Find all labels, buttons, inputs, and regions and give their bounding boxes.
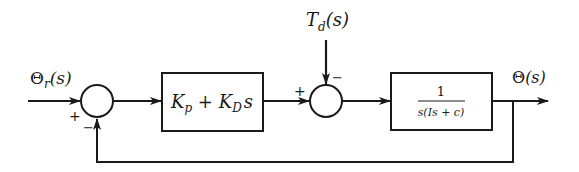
- disturbance-junction-plus-sign: +: [294, 83, 306, 99]
- error-junction-minus-sign: −: [83, 120, 94, 135]
- block-diagram: Θr(s) + − Kp + KDs + Td(s) − 1 s(Is + c)…: [0, 0, 579, 172]
- output-label: Θ(s): [512, 68, 546, 87]
- disturbance-junction-minus-sign: −: [332, 70, 343, 85]
- controller-transfer-function: Kp + KDs: [170, 91, 253, 115]
- plant-denominator: s(Is + c): [418, 106, 465, 119]
- error-summing-junction: [81, 85, 113, 117]
- disturbance-label: Td(s): [306, 9, 349, 34]
- plant-numerator: 1: [437, 84, 445, 99]
- error-junction-plus-sign: +: [69, 108, 81, 124]
- disturbance-summing-junction: [310, 85, 342, 117]
- input-label: Θr(s): [30, 68, 72, 91]
